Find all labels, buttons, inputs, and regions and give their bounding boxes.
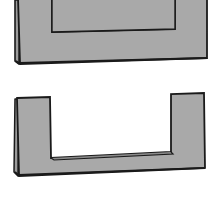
mat-window-edge [52, 0, 175, 32]
folded-u-shaped-mat [14, 93, 205, 176]
folded-mat-with-window [15, 0, 207, 64]
illustration [0, 0, 216, 209]
u-front-layer [17, 93, 205, 175]
